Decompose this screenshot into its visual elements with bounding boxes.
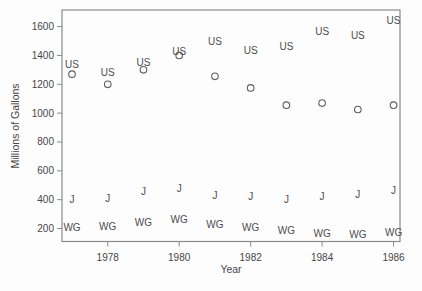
data-point-wg: WG [171, 214, 188, 225]
data-point-j: J [320, 191, 325, 202]
x-axis-tick-label: 1982 [240, 252, 263, 263]
data-point-wg: WG [63, 222, 80, 233]
y-axis-tick-label: 1600 [32, 21, 55, 32]
data-point-wg: WG [385, 227, 402, 238]
y-axis-title: Millions of Gallons [9, 83, 21, 168]
data-point-us: US [208, 36, 222, 47]
data-point-wg: WG [135, 217, 152, 228]
data-point-o [104, 81, 111, 88]
data-point-us: US [279, 41, 293, 52]
data-point-j: J [105, 193, 110, 204]
data-point-o [69, 71, 76, 78]
data-point-us: US [244, 45, 258, 56]
data-point-wg: WG [314, 228, 331, 239]
y-axis-tick-label: 400 [37, 194, 54, 205]
data-point-j: J [284, 194, 289, 205]
data-point-o [355, 106, 362, 113]
data-point-wg: WG [349, 229, 366, 240]
data-point-us: US [65, 59, 79, 70]
data-point-o [390, 102, 397, 109]
data-point-j: J [177, 183, 182, 194]
data-point-us: US [101, 67, 115, 78]
data-point-us: US [351, 30, 365, 41]
x-axis-tick-label: 1984 [311, 252, 334, 263]
y-axis-tick-label: 600 [37, 165, 54, 176]
x-axis-title: Year [220, 263, 242, 275]
y-axis-tick-label: 1200 [32, 79, 55, 90]
data-point-j: J [141, 186, 146, 197]
chart-figure: 2004006008001000120014001600197819801982… [0, 0, 422, 291]
data-point-o [247, 85, 254, 92]
data-point-wg: WG [242, 222, 259, 233]
y-axis-tick-label: 1000 [32, 108, 55, 119]
x-axis-tick-label: 1980 [168, 252, 191, 263]
data-point-o [283, 102, 290, 109]
data-point-j: J [248, 191, 253, 202]
y-axis-tick-label: 800 [37, 136, 54, 147]
data-point-wg: WG [99, 221, 116, 232]
x-axis-tick-label: 1978 [97, 252, 120, 263]
data-point-j: J [355, 189, 360, 200]
plot-frame [62, 10, 400, 242]
y-axis-tick-label: 200 [37, 223, 54, 234]
data-point-wg: WG [206, 219, 223, 230]
scatter-plot: 2004006008001000120014001600197819801982… [0, 0, 422, 291]
y-axis-tick-label: 1400 [32, 50, 55, 61]
data-point-us: US [315, 26, 329, 37]
data-point-j: J [212, 190, 217, 201]
data-point-j: J [391, 185, 396, 196]
data-point-us: US [387, 15, 401, 26]
data-point-o [319, 100, 326, 107]
x-axis-tick-label: 1986 [382, 252, 405, 263]
data-point-wg: WG [278, 225, 295, 236]
data-point-o [212, 73, 219, 80]
data-point-j: J [70, 194, 75, 205]
